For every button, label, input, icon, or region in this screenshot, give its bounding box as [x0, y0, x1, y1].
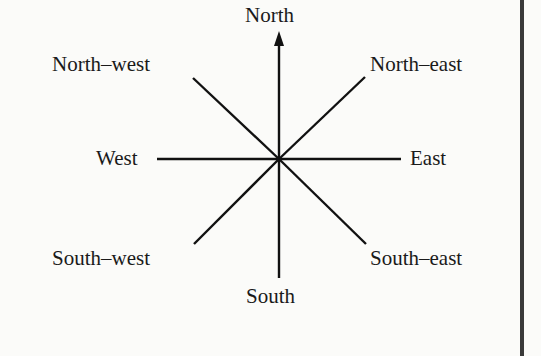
label-west: West [96, 147, 137, 169]
label-north-west: North–west [52, 53, 150, 75]
south-east-line [279, 159, 366, 244]
label-north: North [245, 4, 294, 26]
label-south-east: South–east [370, 247, 462, 269]
center-point [277, 157, 282, 162]
label-north-east: North–east [370, 53, 462, 75]
label-south-west: South–west [52, 247, 150, 269]
label-east: East [410, 147, 446, 169]
south-west-line [194, 159, 279, 244]
label-south: South [246, 285, 295, 307]
north-west-line [193, 78, 279, 159]
north-east-line [279, 77, 365, 159]
north-arrowhead-icon [274, 31, 284, 46]
